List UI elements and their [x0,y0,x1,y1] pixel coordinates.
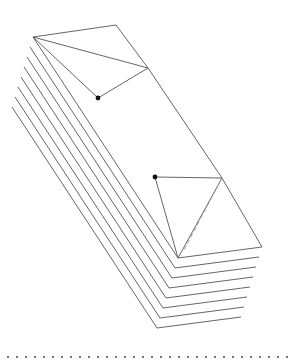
rule-dot [205,356,207,358]
rule-dot [196,356,198,358]
fold-point-dot [153,175,158,180]
rule-dot [106,356,108,358]
rule-dot [88,356,90,358]
rule-dot [187,356,189,358]
top-sheet [33,25,262,258]
rule-dot [277,356,279,358]
rule-dot [286,356,288,358]
rule-dot [79,356,81,358]
rule-dot [268,356,270,358]
dotted-rule [7,356,288,358]
rule-dot [97,356,99,358]
rule-dot [250,356,252,358]
rule-dot [169,356,171,358]
rule-dot [133,356,135,358]
rule-dot [259,356,261,358]
top-sheet-outline [33,25,262,258]
rule-dot [124,356,126,358]
rule-dot [142,356,144,358]
folded-paper-diagram [0,0,290,361]
rule-dot [232,356,234,358]
rule-dot [223,356,225,358]
rule-dot [16,356,18,358]
rule-dot [70,356,72,358]
rule-dot [115,356,117,358]
rule-dot [7,356,9,358]
rule-dot [34,356,36,358]
rule-dot [52,356,54,358]
rule-dot [178,356,180,358]
rule-dot [160,356,162,358]
rule-dot [61,356,63,358]
fold-point-dot [96,96,101,101]
rule-dot [43,356,45,358]
rule-dot [214,356,216,358]
rule-dot [151,356,153,358]
rule-dot [241,356,243,358]
rule-dot [25,356,27,358]
